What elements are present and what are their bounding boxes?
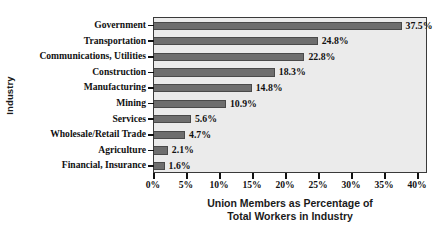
bar-value-label: 14.8% (256, 82, 283, 93)
bar-row: 22.8% (154, 49, 426, 65)
category-label: Financial, Insurance (16, 157, 146, 173)
category-tick-mark (148, 103, 154, 105)
bar-value-label: 37.5% (406, 20, 433, 31)
x-tick-label: 25% (308, 179, 327, 190)
category-tick-mark (148, 25, 154, 27)
bar-value-label: 2.1% (172, 144, 194, 155)
bar-row: 1.6% (154, 158, 426, 174)
category-label: Communications, Utilities (16, 48, 146, 64)
bar (154, 68, 275, 76)
category-label: Wholesale/Retail Trade (16, 126, 146, 142)
bar (154, 115, 191, 123)
bar-value-label: 18.3% (279, 66, 306, 77)
category-tick-mark (148, 165, 154, 167)
x-tick-label: 5% (179, 179, 193, 190)
x-axis-title-line-1: Union Members as Percentage of (153, 197, 427, 210)
x-tick-label: 35% (374, 179, 393, 190)
y-axis-title-text: Industry (4, 76, 15, 114)
category-label: Agriculture (16, 142, 146, 158)
category-label: Manufacturing (16, 79, 146, 95)
y-axis-title: Industry (2, 60, 16, 130)
bar-value-label: 5.6% (195, 113, 217, 124)
x-tick-label: 40% (407, 179, 426, 190)
x-tick-label: 0% (146, 179, 160, 190)
category-label: Services (16, 111, 146, 127)
bar (154, 100, 226, 108)
bar (154, 53, 304, 61)
x-axis-title: Union Members as Percentage of Total Wor… (153, 197, 427, 223)
x-tick-label: 30% (341, 179, 360, 190)
category-label: Government (16, 17, 146, 33)
x-tick-label: 20% (275, 179, 294, 190)
bar-value-label: 4.7% (189, 129, 211, 140)
bar-row: 4.7% (154, 127, 426, 143)
bar (154, 146, 168, 154)
category-label: Mining (16, 95, 146, 111)
category-label: Construction (16, 64, 146, 80)
x-tick-label: 15% (242, 179, 261, 190)
bar (154, 162, 165, 170)
bar (154, 22, 402, 30)
bar-row: 18.3% (154, 65, 426, 81)
category-label: Transportation (16, 33, 146, 49)
bar-row: 2.1% (154, 143, 426, 159)
category-tick-mark (148, 56, 154, 58)
category-tick-mark (148, 150, 154, 152)
category-axis-labels: GovernmentTransportationCommunications, … (16, 17, 146, 173)
category-tick-mark (148, 134, 154, 136)
bar-value-label: 24.8% (322, 35, 349, 46)
bar-row: 24.8% (154, 34, 426, 50)
category-tick-mark (148, 87, 154, 89)
x-axis-ticks: 0%5%10%15%20%25%30%35%40% (153, 173, 427, 193)
bar-row: 14.8% (154, 80, 426, 96)
bar-value-label: 10.9% (230, 98, 257, 109)
bar (154, 131, 185, 139)
bar-row: 10.9% (154, 96, 426, 112)
bar (154, 84, 252, 92)
plot-area: 37.5%24.8%22.8%18.3%14.8%10.9%5.6%4.7%2.… (153, 17, 427, 173)
category-tick-mark (148, 40, 154, 42)
bar (154, 37, 318, 45)
x-tick-label: 10% (209, 179, 228, 190)
category-tick-mark (148, 118, 154, 120)
x-axis-title-line-2: Total Workers in Industry (153, 210, 427, 223)
bar-row: 5.6% (154, 112, 426, 128)
bar-row: 37.5% (154, 18, 426, 34)
bar-value-label: 22.8% (308, 51, 335, 62)
bar-value-label: 1.6% (169, 160, 191, 171)
union-membership-bar-chart: Industry GovernmentTransportationCommuni… (0, 0, 440, 240)
category-tick-mark (148, 72, 154, 74)
